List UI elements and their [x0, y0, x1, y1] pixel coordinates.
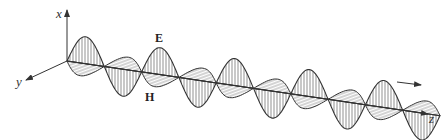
z-axis-label: z: [428, 111, 434, 126]
electric-field-label: E: [155, 31, 163, 45]
y-axis: [26, 61, 67, 80]
propagation-arrow-icon: [397, 82, 421, 85]
em-wave-diagram: x y z E H: [0, 0, 442, 140]
electric-field-lobe: [403, 110, 440, 140]
y-axis-label: y: [14, 74, 22, 89]
magnetic-field-label: H: [145, 90, 155, 104]
x-axis-label: x: [55, 6, 62, 21]
